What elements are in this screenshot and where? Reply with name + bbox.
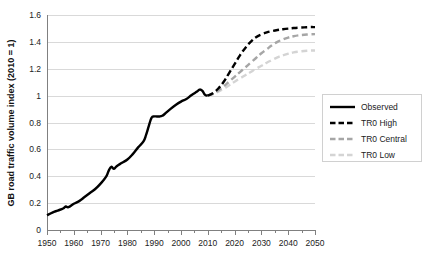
y-tick-label: 0: [36, 225, 41, 235]
x-tick-label: 2050: [306, 238, 325, 248]
x-tick-label: 2010: [198, 238, 217, 248]
x-tick-label: 2000: [172, 238, 191, 248]
y-tick-label: 0.4: [29, 171, 41, 181]
x-tick-label: 2030: [252, 238, 271, 248]
x-tick-label: 2040: [279, 238, 298, 248]
legend-label-tr0-high[interactable]: TR0 High: [361, 118, 397, 128]
x-tick-label: 2020: [225, 238, 244, 248]
legend-label-tr0-low[interactable]: TR0 Low: [361, 150, 396, 160]
x-tick-label: 1960: [64, 238, 83, 248]
x-tick-label: 1950: [38, 238, 57, 248]
y-tick-label: 1.2: [29, 64, 41, 74]
y-tick-label: 1: [36, 91, 41, 101]
y-tick-label: 1.4: [29, 37, 41, 47]
x-tick-label: 1990: [145, 238, 164, 248]
x-tick-label: 1970: [91, 238, 110, 248]
y-tick-label: 0.2: [29, 198, 41, 208]
y-axis-tick-labels: 00.20.40.60.811.21.41.6: [29, 10, 41, 235]
legend-label-tr0-central[interactable]: TR0 Central: [361, 134, 407, 144]
legend-label-observed[interactable]: Observed: [361, 102, 398, 112]
x-tick-label: 1980: [118, 238, 137, 248]
chart-legend[interactable]: ObservedTR0 HighTR0 CentralTR0 Low: [323, 95, 422, 162]
y-tick-label: 1.6: [29, 10, 41, 20]
y-axis-title: GB road traffic volume index (2010 = 1): [6, 40, 16, 207]
y-tick-label: 0.8: [29, 118, 41, 128]
line-chart: 00.20.40.60.811.21.41.6 1950196019701980…: [0, 0, 427, 258]
y-tick-label: 0.6: [29, 144, 41, 154]
x-axis-tick-labels: 1950196019701980199020002010202020302040…: [38, 238, 325, 248]
chart-figure: 00.20.40.60.811.21.41.6 1950196019701980…: [0, 0, 427, 258]
